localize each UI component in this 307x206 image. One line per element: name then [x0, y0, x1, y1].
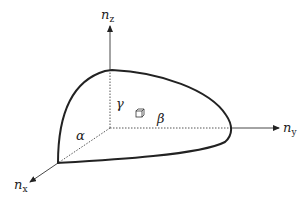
volume-element-cube-icon [136, 109, 144, 117]
region-label-gamma: γ [116, 97, 124, 110]
axis-label-ny: ny [283, 121, 296, 134]
region-label-alpha: α [76, 129, 85, 142]
diagram-svg [0, 0, 307, 206]
diagram-canvas: nz ny nx γ β α [0, 0, 307, 206]
region-label-beta: β [157, 112, 165, 125]
x-axis [30, 128, 110, 182]
axis-label-nz: nz [101, 8, 114, 21]
axis-label-nx: nx [14, 178, 27, 191]
surface-outline [58, 70, 231, 163]
